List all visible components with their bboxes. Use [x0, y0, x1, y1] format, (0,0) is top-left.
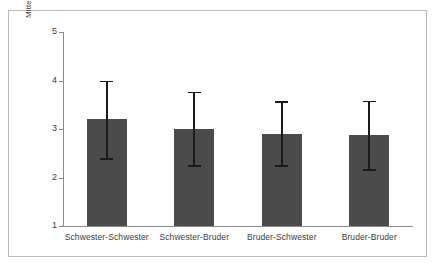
y-axis-title: Mittelwert positive Merkmale der Geschwi… [23, 0, 47, 39]
y-axis-tick-mark [59, 178, 63, 179]
x-axis-tick-label: Bruder-Bruder [342, 232, 397, 242]
error-bar-cap-upper [188, 92, 201, 94]
y-axis-title-line-2: Geschwisterbeziehung [34, 0, 45, 39]
y-axis-tick-label: 3 [52, 122, 57, 135]
y-axis-tick-label: 4 [52, 74, 57, 87]
error-bar-cap-lower [363, 169, 376, 171]
y-axis-tick-mark [59, 81, 63, 82]
error-bar-line [193, 92, 195, 166]
error-bar-cap-lower [188, 165, 201, 167]
plot-area: 12345 Schwester-SchwesterSchwester-Brude… [63, 32, 413, 226]
error-bar-cap-lower [275, 165, 288, 167]
bar-group[interactable]: Schwester-Schwester [87, 32, 127, 226]
bar-group[interactable]: Bruder-Schwester [262, 32, 302, 226]
error-bar-line [106, 81, 108, 159]
bar-group[interactable]: Schwester-Bruder [174, 32, 214, 226]
x-axis-tick-label: Schwester-Bruder [159, 232, 229, 242]
error-bar-line [368, 101, 370, 169]
bar-group[interactable]: Bruder-Bruder [349, 32, 389, 226]
x-axis-line [63, 226, 413, 227]
y-axis-tick-mark [59, 226, 63, 227]
error-bar-line [281, 101, 283, 165]
y-axis-tick-label: 2 [52, 171, 57, 184]
error-bar-cap-upper [100, 81, 113, 83]
y-axis-title-line-1: Mittelwert positive Merkmale der [23, 0, 34, 39]
error-bar-cap-upper [363, 101, 376, 103]
error-bar-cap-lower [100, 158, 113, 160]
figure-frame: Mittelwert positive Merkmale der Geschwi… [8, 10, 427, 257]
y-axis-tick-label: 1 [52, 219, 57, 232]
error-bar-cap-upper [275, 101, 288, 103]
y-axis-tick-mark [59, 129, 63, 130]
y-axis-tick-mark [59, 32, 63, 33]
y-axis-line [63, 32, 64, 226]
x-axis-tick-label: Schwester-Schwester [65, 232, 149, 242]
x-axis-tick-label: Bruder-Schwester [247, 232, 317, 242]
y-axis-tick-label: 5 [52, 25, 57, 38]
